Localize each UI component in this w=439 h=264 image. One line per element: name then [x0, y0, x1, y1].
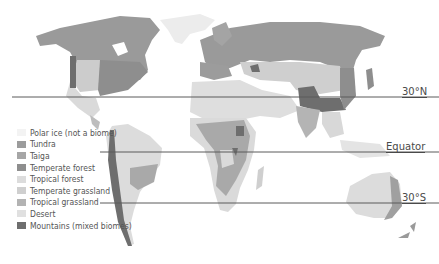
swatch-polar-ice [17, 129, 26, 136]
legend-item-tropical-forest: Tropical forest [17, 173, 132, 185]
swatch-tropical-grassland [17, 199, 26, 206]
swatch-desert [17, 210, 26, 217]
legend-label: Taiga [30, 151, 50, 161]
legend-item-tundra: Tundra [17, 139, 132, 151]
swatch-taiga [17, 152, 26, 159]
sahara-desert [190, 80, 300, 122]
legend-label: Mountains (mixed biomes) [30, 221, 132, 231]
biome-legend: Polar ice (not a biome) Tundra Taiga Tem… [17, 127, 132, 231]
usa-grassland [72, 60, 100, 92]
south-america-grassland [130, 164, 158, 190]
legend-label: Temperate grassland [30, 186, 110, 196]
legend-label: Desert [30, 209, 55, 219]
swatch-mountains [17, 222, 26, 229]
swatch-tundra [17, 141, 26, 148]
legend-label: Tropical grassland [30, 197, 99, 207]
legend-item-taiga: Taiga [17, 150, 132, 162]
swatch-temperate-grassland [17, 187, 26, 194]
legend-item-tropical-grassland: Tropical grassland [17, 197, 132, 209]
swatch-tropical-forest [17, 176, 26, 183]
legend-label: Polar ice (not a biome) [30, 128, 117, 138]
india [296, 106, 320, 138]
legend-label: Temperate forest [30, 163, 95, 173]
label-30n: 30°N [402, 86, 427, 98]
legend-label: Tundra [30, 139, 56, 149]
legend-item-desert: Desert [17, 208, 132, 220]
usa-forest [98, 60, 148, 96]
label-30s: 30°S [402, 192, 426, 204]
legend-item-temperate-grassland: Temperate grassland [17, 185, 132, 197]
label-equator: Equator [386, 141, 425, 153]
legend-item-mountains: Mountains (mixed biomes) [17, 220, 132, 232]
rocky-mountains [70, 56, 76, 88]
swatch-temperate-forest [17, 164, 26, 171]
legend-item-polar-ice: Polar ice (not a biome) [17, 127, 132, 139]
legend-label: Tropical forest [30, 174, 84, 184]
legend-item-temperate-forest: Temperate forest [17, 162, 132, 174]
